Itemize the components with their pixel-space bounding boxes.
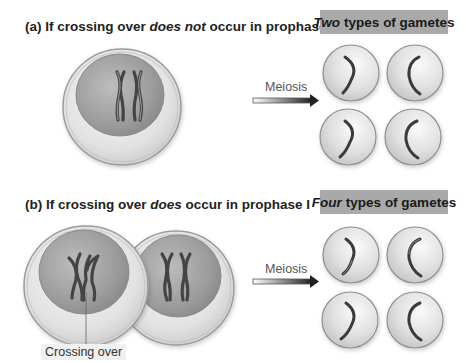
title-emphasis: does — [150, 197, 182, 212]
gamete — [323, 227, 379, 283]
gamete — [387, 292, 443, 348]
meiosis-arrow-a — [253, 94, 319, 107]
meiosis-label-b: Meiosis — [265, 262, 307, 276]
gametes-a — [320, 45, 443, 165]
badge-emphasis: Four — [312, 195, 342, 210]
title-emphasis: does not — [150, 19, 206, 34]
panel-b-badge: Fourtypes of gametes — [320, 190, 448, 214]
gamete — [320, 109, 376, 165]
diagram-graphics — [0, 0, 466, 362]
gamete — [322, 292, 378, 348]
title-text: (b) If crossing over — [25, 197, 150, 212]
title-text: occur in prophase I — [182, 197, 310, 212]
parent-cell-a — [63, 49, 181, 165]
crossing-over-label: Crossing over — [41, 344, 126, 360]
meiosis-arrow-b — [253, 275, 319, 288]
meiosis-label-a: Meiosis — [265, 80, 307, 94]
gamete — [387, 45, 443, 101]
gamete — [387, 227, 443, 283]
panel-b-title: (b) If crossing over does occur in proph… — [25, 197, 310, 212]
gametes-b — [322, 227, 443, 348]
gamete — [323, 45, 379, 101]
badge-text: types of gametes — [346, 195, 456, 210]
badge-emphasis: Two — [314, 15, 341, 30]
panel-a-title: (a) If crossing over does not occur in p… — [25, 19, 334, 34]
title-text: (a) If crossing over — [25, 19, 150, 34]
panel-a-badge: Twotypes of gametes — [320, 10, 448, 34]
badge-text: types of gametes — [344, 15, 454, 30]
gamete — [385, 109, 441, 165]
